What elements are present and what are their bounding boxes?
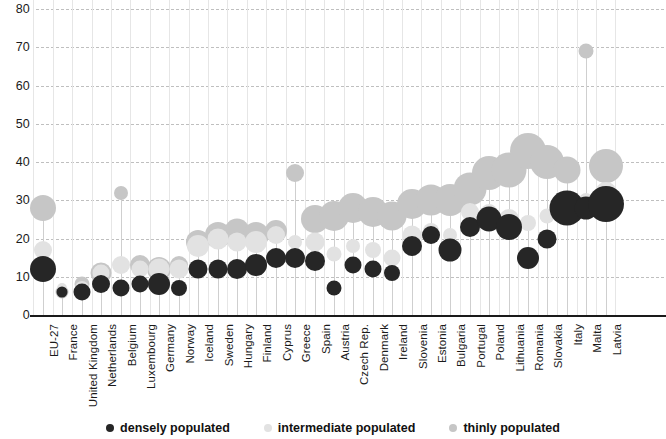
x-tick-label: Netherlands bbox=[106, 324, 118, 387]
data-point bbox=[589, 149, 623, 183]
legend-label: intermediate populated bbox=[278, 421, 416, 435]
vertical-gridline bbox=[305, 0, 306, 315]
data-point bbox=[30, 195, 56, 221]
data-point bbox=[517, 247, 539, 269]
legend-swatch-icon bbox=[264, 424, 272, 432]
data-point bbox=[266, 248, 286, 268]
data-point bbox=[112, 256, 130, 274]
data-point bbox=[228, 233, 247, 252]
stem-line bbox=[509, 170, 510, 315]
data-point bbox=[169, 260, 188, 279]
x-tick-label: France bbox=[67, 324, 79, 360]
x-tick-label: Ireland bbox=[397, 324, 409, 360]
y-tick-label: 10 bbox=[16, 270, 30, 284]
data-point bbox=[402, 236, 422, 256]
legend-item-intermediate[interactable]: intermediate populated bbox=[264, 421, 416, 435]
chart-legend: densely populatedintermediate populatedt… bbox=[0, 417, 666, 439]
vertical-gridline bbox=[402, 0, 403, 315]
legend-swatch-icon bbox=[449, 424, 457, 432]
data-point bbox=[112, 280, 129, 297]
data-point bbox=[345, 257, 362, 274]
data-point bbox=[439, 238, 462, 261]
data-point bbox=[92, 275, 110, 293]
x-tick-label: Greece bbox=[300, 324, 312, 362]
vertical-gridline bbox=[286, 0, 287, 315]
stem-line bbox=[528, 151, 529, 315]
data-point bbox=[114, 186, 128, 200]
x-tick-label: Spain bbox=[320, 324, 332, 354]
data-point bbox=[207, 228, 228, 249]
vertical-gridline bbox=[460, 0, 461, 315]
x-tick-label: Latvia bbox=[611, 324, 623, 355]
data-point bbox=[579, 44, 594, 59]
vertical-gridline bbox=[72, 0, 73, 315]
data-point bbox=[365, 242, 381, 258]
legend-item-thinly[interactable]: thinly populated bbox=[449, 421, 560, 435]
legend-label: thinly populated bbox=[463, 421, 560, 435]
data-point bbox=[285, 248, 305, 268]
x-tick-label: Germany bbox=[164, 324, 176, 372]
data-point bbox=[227, 259, 247, 279]
x-axis: EU-27FranceUnited KingdomNetherlandsBelg… bbox=[0, 320, 666, 412]
x-tick-label: Cyprus bbox=[281, 324, 293, 361]
data-point bbox=[148, 273, 170, 295]
bubble-chart: 01020304050607080 EU-27FranceUnited King… bbox=[0, 0, 666, 439]
legend-item-densely[interactable]: densely populated bbox=[106, 421, 230, 435]
data-point bbox=[132, 276, 149, 293]
data-point bbox=[30, 256, 56, 282]
x-tick-label: Iceland bbox=[203, 324, 215, 362]
data-point bbox=[189, 260, 208, 279]
data-point bbox=[538, 229, 557, 248]
data-point bbox=[384, 249, 401, 266]
x-tick-label: Slovakia bbox=[552, 324, 564, 368]
x-tick-label: Lithuania bbox=[514, 324, 526, 372]
x-tick-label: Italy bbox=[572, 324, 584, 346]
x-tick-label: United Kingdom bbox=[87, 324, 99, 407]
data-point bbox=[187, 235, 209, 257]
x-tick-label: Romania bbox=[533, 324, 545, 371]
data-point bbox=[422, 226, 440, 244]
data-point bbox=[553, 156, 580, 183]
vertical-gridline bbox=[441, 0, 442, 315]
y-tick-label: 60 bbox=[16, 79, 30, 93]
vertical-gridline bbox=[577, 0, 578, 315]
x-tick-label: Hungary bbox=[242, 324, 254, 368]
y-tick-label: 30 bbox=[16, 193, 30, 207]
data-point bbox=[171, 280, 187, 296]
data-point bbox=[364, 261, 381, 278]
legend-swatch-icon bbox=[106, 424, 114, 432]
x-tick-label: Slovenia bbox=[417, 324, 429, 369]
y-tick-label: 50 bbox=[16, 117, 30, 131]
stem-line bbox=[431, 200, 432, 315]
y-tick-label: 40 bbox=[16, 155, 30, 169]
y-tick-label: 20 bbox=[16, 232, 30, 246]
data-point bbox=[327, 281, 342, 296]
y-axis: 01020304050607080 bbox=[0, 0, 30, 330]
x-tick-label: Bulgaria bbox=[455, 324, 467, 367]
x-tick-label: Estonia bbox=[436, 324, 448, 363]
y-tick-label: 70 bbox=[16, 40, 30, 54]
x-tick-label: EU-27 bbox=[48, 324, 60, 357]
data-point bbox=[245, 231, 267, 253]
stem-line bbox=[412, 204, 413, 315]
data-point bbox=[267, 226, 285, 244]
data-point bbox=[57, 287, 68, 298]
x-tick-label: Poland bbox=[494, 324, 506, 360]
x-tick-label: Finland bbox=[261, 324, 273, 362]
data-point bbox=[73, 284, 90, 301]
data-point bbox=[305, 251, 325, 271]
data-point bbox=[327, 246, 342, 261]
x-tick-label: Austria bbox=[339, 324, 351, 361]
x-tick-label: Luxembourg bbox=[145, 324, 157, 389]
stem-line bbox=[586, 51, 587, 315]
vertical-gridline bbox=[324, 0, 325, 315]
plot-area: 01020304050607080 bbox=[0, 0, 666, 330]
data-point bbox=[496, 214, 522, 240]
vertical-gridline bbox=[421, 0, 422, 315]
data-point bbox=[384, 265, 400, 281]
data-point bbox=[286, 164, 304, 182]
data-point bbox=[208, 260, 227, 279]
x-tick-label: Portugal bbox=[475, 324, 487, 368]
x-tick-label: Denmark bbox=[378, 324, 390, 371]
x-tick-label: Czech Rep. bbox=[358, 324, 370, 385]
